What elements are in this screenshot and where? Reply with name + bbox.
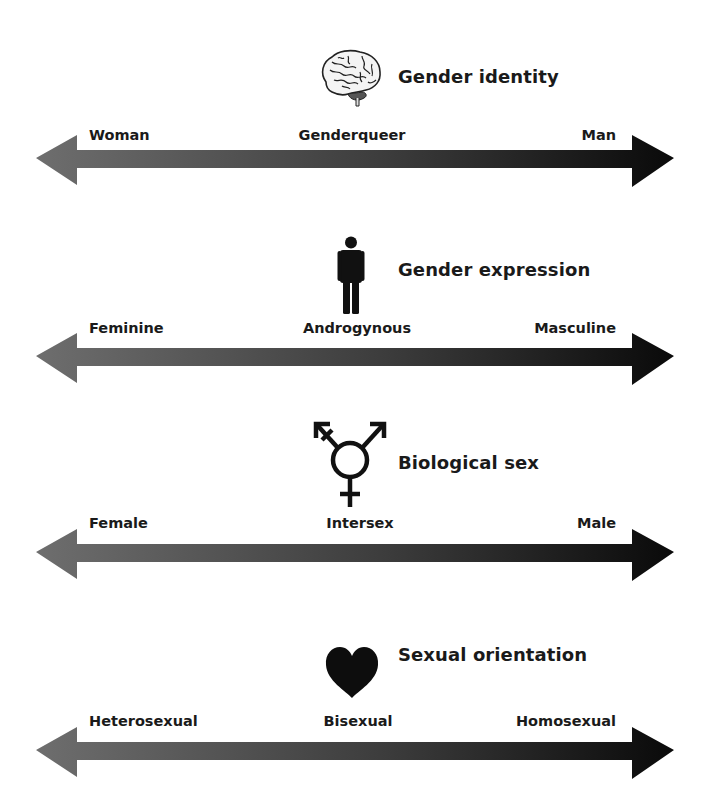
double-arrow-spectrum bbox=[0, 133, 719, 189]
brain-icon bbox=[318, 48, 384, 108]
scale-title: Sexual orientation bbox=[398, 644, 587, 665]
transgender-symbol-icon bbox=[310, 418, 390, 510]
heart-icon bbox=[324, 645, 380, 699]
double-arrow-spectrum bbox=[0, 725, 719, 781]
double-arrow-spectrum bbox=[0, 331, 719, 387]
double-arrow-spectrum bbox=[0, 527, 719, 583]
scale-title: Gender identity bbox=[398, 66, 559, 87]
scale-title: Gender expression bbox=[398, 259, 590, 280]
person-icon bbox=[336, 236, 366, 316]
scale-title: Biological sex bbox=[398, 452, 539, 473]
